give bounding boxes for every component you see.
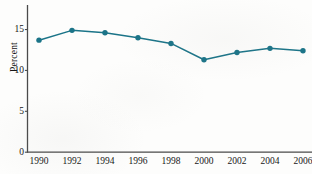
data-point-marker xyxy=(69,28,74,33)
x-axis-tick-label: 1994 xyxy=(96,155,115,167)
x-axis-tick-label: 2006 xyxy=(294,155,313,167)
data-point-marker xyxy=(300,48,305,53)
data-point-marker xyxy=(267,46,272,51)
x-axis-tick-label: 2000 xyxy=(195,155,214,167)
data-point-marker xyxy=(234,50,239,55)
x-axis-tick-label: 1992 xyxy=(63,155,82,167)
data-point-markers xyxy=(36,28,305,63)
axis-lines xyxy=(27,5,312,153)
y-axis-tick-label: 5 xyxy=(2,106,24,116)
data-point-marker xyxy=(135,35,140,40)
x-axis-tick-label: 1996 xyxy=(129,155,148,167)
x-axis-tick-label: 1998 xyxy=(162,155,181,167)
x-axis-tick-label: 2002 xyxy=(228,155,247,167)
data-point-marker xyxy=(36,37,41,42)
plot-area xyxy=(0,0,312,174)
data-point-marker xyxy=(201,57,206,62)
x-axis-tick-label: 1990 xyxy=(30,155,49,167)
y-axis-title: Percent xyxy=(9,25,19,89)
data-point-marker xyxy=(102,30,107,35)
x-axis-tick-label-group: 199019921994199619982000200220042006 xyxy=(0,155,312,173)
data-point-marker xyxy=(168,41,173,46)
x-axis-tick-label: 2004 xyxy=(261,155,280,167)
chart-container: 151050 Percent 1990199219941996199820002… xyxy=(0,0,312,174)
